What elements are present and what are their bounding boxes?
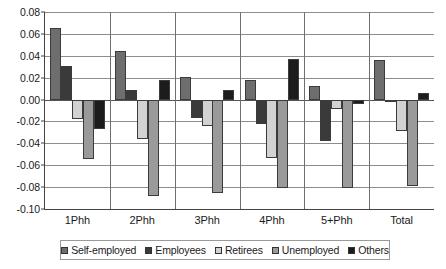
bar-slot [83,12,94,209]
bar-slot [320,12,331,209]
y-axis-tick-label: 0.02 [20,72,40,84]
legend-swatch-icon [215,247,222,254]
bar-others [159,80,170,100]
y-axis-tick-label: 0.06 [20,28,40,40]
bar-slot [266,12,277,209]
y-axis-tick-label: -0.06 [17,159,40,171]
y-axis-tick-label: -0.10 [17,203,40,215]
bar-slot [137,12,148,209]
bar-employees [256,100,267,124]
bar-unemployed [342,100,353,189]
bar-group-4phh: 4Phh [240,12,305,209]
bar-self-employed [245,80,256,100]
bar-unemployed [277,100,288,189]
bar-group-2phh: 2Phh [110,12,175,209]
bar-unemployed [212,100,223,193]
legend-swatch-icon [61,247,68,254]
y-axis-tick-label: -0.02 [17,115,40,127]
plot-area: 0.080.060.040.020.00-0.02-0.04-0.06-0.08… [44,12,434,210]
legend-item-self-employed[interactable]: Self-employed [61,244,136,256]
bar-others [288,59,299,99]
bar-slot [331,12,342,209]
bar-retirees [137,100,148,139]
bar-self-employed [50,28,61,99]
bar-slot [396,12,407,209]
bar-slot [180,12,191,209]
bar-others [223,90,234,100]
bar-employees [385,100,396,102]
bar-slot [50,12,61,209]
legend-label: Unemployed [282,244,339,256]
bar-others [353,100,364,104]
chart-legend: Self-employedEmployeesRetireesUnemployed… [60,240,390,260]
y-axis-tick-label: 0.00 [20,94,40,106]
bar-slot [353,12,364,209]
bar-slot [61,12,72,209]
bar-slot [191,12,202,209]
legend-label: Employees [155,244,206,256]
bar-unemployed [407,100,418,186]
bar-employees [320,100,331,142]
bar-unemployed [148,100,159,196]
bar-group-5plusphh: 5+Phh [304,12,369,209]
bar-slot [223,12,234,209]
bar-slot [342,12,353,209]
bar-retirees [396,100,407,132]
bar-self-employed [115,51,126,99]
bar-slot [245,12,256,209]
x-axis-label: 5+Phh [304,214,369,226]
bar-others [94,100,105,130]
legend-item-employees[interactable]: Employees [145,244,206,256]
x-axis-label: 4Phh [240,214,305,226]
bar-slot [385,12,396,209]
bar-self-employed [180,77,191,100]
legend-item-unemployed[interactable]: Unemployed [272,244,339,256]
legend-label: Others [358,244,389,256]
y-axis-tick-label: 0.04 [20,50,40,62]
bar-employees [191,100,202,119]
bar-self-employed [374,60,385,99]
bar-slot [159,12,170,209]
bar-group-3phh: 3Phh [175,12,240,209]
bar-slot [126,12,137,209]
legend-item-others[interactable]: Others [348,244,389,256]
y-axis-tick-label: -0.04 [17,137,40,149]
bar-slot [94,12,105,209]
bar-chart: 0.080.060.040.020.00-0.02-0.04-0.06-0.08… [0,0,446,269]
bar-slot [256,12,267,209]
bar-slot [213,12,224,209]
bar-retirees [202,100,213,126]
bar-slot [407,12,418,209]
y-axis-tick-label: -0.08 [17,181,40,193]
bar-retirees [331,100,342,110]
x-axis-label: 2Phh [110,214,175,226]
bar-self-employed [309,86,320,99]
bar-slot [72,12,83,209]
bar-employees [126,90,137,100]
legend-label: Self-employed [71,244,136,256]
bar-group-1phh: 1Phh [45,12,110,209]
bar-others [418,93,429,100]
bar-slot [310,12,321,209]
x-axis-label: 3Phh [175,214,240,226]
bar-retirees [72,100,83,120]
y-axis-tick-label: 0.08 [20,6,40,18]
bar-slot [418,12,429,209]
bar-slot [374,12,385,209]
bar-retirees [266,100,277,158]
bar-slot [288,12,299,209]
legend-swatch-icon [145,247,152,254]
bar-slot [148,12,159,209]
bar-group-total: Total [369,12,434,209]
bar-employees [61,66,72,100]
legend-swatch-icon [348,247,355,254]
bar-unemployed [83,100,94,159]
x-axis-label: 1Phh [45,214,110,226]
bar-slot [202,12,213,209]
legend-item-retirees[interactable]: Retirees [215,244,263,256]
bar-slot [277,12,288,209]
legend-label: Retirees [225,244,263,256]
legend-swatch-icon [272,247,279,254]
x-axis-label: Total [369,214,434,226]
bar-slot [115,12,126,209]
